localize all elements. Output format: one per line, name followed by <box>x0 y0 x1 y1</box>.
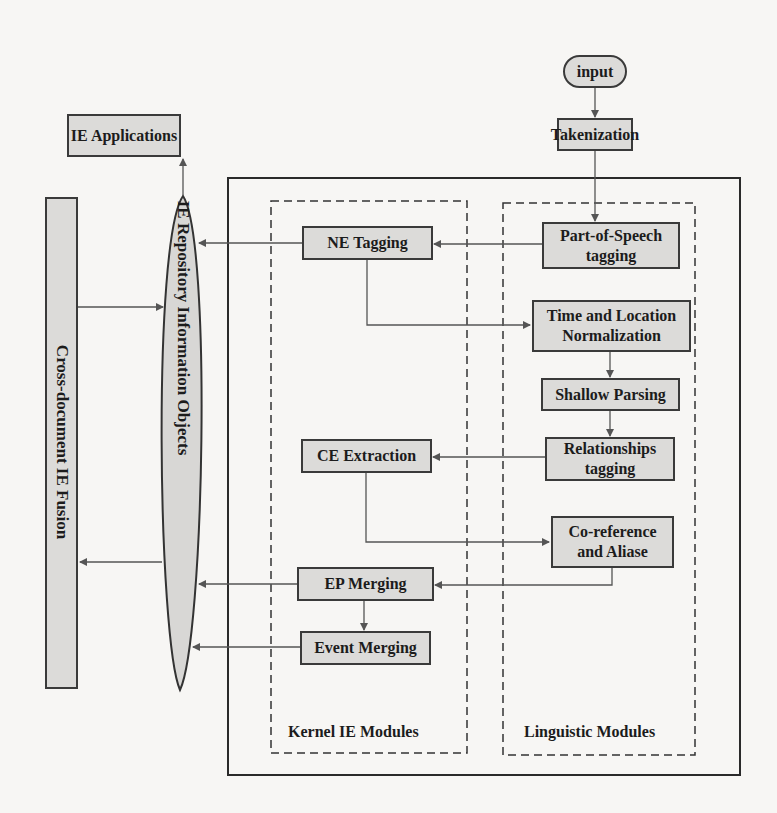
kernel-group-border <box>271 201 467 753</box>
pos-tagging-node: Part-of-Speech tagging <box>542 222 680 269</box>
time-location-label-line2: Normalization <box>562 326 661 346</box>
tokenization-node: Takenization <box>557 118 633 151</box>
repository-label: IE Repository Information Objects <box>173 178 193 478</box>
input-node: input <box>563 55 627 88</box>
time-location-node: Time and Location Normalization <box>532 300 691 352</box>
pos-tagging-label-line1: Part-of-Speech <box>560 226 662 246</box>
pos-tagging-label-line2: tagging <box>586 246 637 266</box>
shallow-parsing-node: Shallow Parsing <box>541 378 680 411</box>
cross-document-fusion-label: Cross-document IE Fusion <box>52 342 72 542</box>
input-label: input <box>577 62 613 82</box>
coreference-label-line1: Co-reference <box>568 522 656 542</box>
ep-merging-label: EP Merging <box>324 574 406 594</box>
ce-extraction-label: CE Extraction <box>317 446 416 466</box>
relationships-tagging-label-line2: tagging <box>585 459 636 479</box>
ie-applications-label: IE Applications <box>71 126 177 146</box>
ie-applications-node: IE Applications <box>67 114 181 157</box>
coreference-node: Co-reference and Aliase <box>551 516 674 568</box>
event-merging-node: Event Merging <box>300 631 431 665</box>
relationships-tagging-node: Relationships tagging <box>545 437 675 481</box>
relationships-tagging-label-line1: Relationships <box>564 439 656 459</box>
ep-merging-node: EP Merging <box>297 567 434 601</box>
event-merging-label: Event Merging <box>314 638 417 658</box>
shallow-parsing-label: Shallow Parsing <box>555 385 666 405</box>
ne-tagging-node: NE Tagging <box>302 226 433 260</box>
ce-extraction-node: CE Extraction <box>301 439 432 473</box>
coreference-label-line2: and Aliase <box>577 542 648 562</box>
time-location-label-line1: Time and Location <box>547 306 677 326</box>
tokenization-label: Takenization <box>551 125 639 145</box>
linguistic-group-label: Linguistic Modules <box>524 723 655 741</box>
ne-tagging-label: NE Tagging <box>327 233 407 253</box>
kernel-group-label: Kernel IE Modules <box>288 723 419 741</box>
